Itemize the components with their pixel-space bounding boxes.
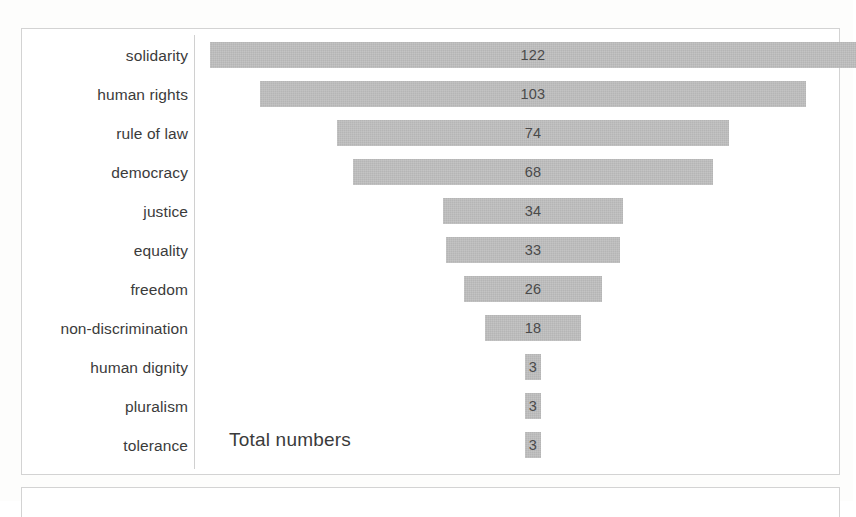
bar-track: 3 <box>195 387 841 426</box>
category-label-human-rights: human rights <box>97 75 188 114</box>
funnel-rows: solidarity122human rights103rule of law7… <box>22 36 841 468</box>
funnel-chart-frame: solidarity122human rights103rule of law7… <box>21 28 840 475</box>
category-label-pluralism: pluralism <box>125 387 188 426</box>
bar-value-label: 68 <box>353 159 713 185</box>
bar-value-label: 103 <box>260 81 805 107</box>
category-label-tolerance: tolerance <box>123 426 188 465</box>
bar-track: 103 <box>195 75 841 114</box>
funnel-row: freedom26 <box>22 270 841 309</box>
bar-value-label: 33 <box>446 237 621 263</box>
bar-value-label: 3 <box>525 393 541 419</box>
category-label-human-dignity: human dignity <box>90 348 188 387</box>
bar-value-label: 18 <box>485 315 580 341</box>
bar-track: 34 <box>195 192 841 231</box>
funnel-row: non-discrimination18 <box>22 309 841 348</box>
bar-track: 18 <box>195 309 841 348</box>
funnel-row: rule of law74 <box>22 114 841 153</box>
category-label-equality: equality <box>134 231 188 270</box>
bar-value-label: 3 <box>525 432 541 458</box>
category-label-non-discrimination: non-discrimination <box>60 309 188 348</box>
funnel-row: pluralism3 <box>22 387 841 426</box>
funnel-row: justice34 <box>22 192 841 231</box>
category-label-justice: justice <box>143 192 188 231</box>
bar-track: 74 <box>195 114 841 153</box>
bar-track: 122 <box>195 36 841 75</box>
bar-value-label: 122 <box>210 42 856 68</box>
bar-track: 26 <box>195 270 841 309</box>
funnel-row: human rights103 <box>22 75 841 114</box>
bar-track: 3 <box>195 348 841 387</box>
funnel-row: human dignity3 <box>22 348 841 387</box>
bar-track: 68 <box>195 153 841 192</box>
bar-value-label: 34 <box>443 198 623 224</box>
category-label-democracy: democracy <box>111 153 188 192</box>
category-label-freedom: freedom <box>130 270 188 309</box>
bar-value-label: 3 <box>525 354 541 380</box>
bar-track: 33 <box>195 231 841 270</box>
bar-value-label: 26 <box>464 276 602 302</box>
funnel-row: democracy68 <box>22 153 841 192</box>
funnel-row: solidarity122 <box>22 36 841 75</box>
category-label-rule-of-law: rule of law <box>116 114 188 153</box>
funnel-row: equality33 <box>22 231 841 270</box>
funnel-row: tolerance3 <box>22 426 841 465</box>
category-label-solidarity: solidarity <box>126 36 188 75</box>
chart-caption: Total numbers <box>229 429 351 451</box>
clipped-header-text <box>0 0 853 11</box>
bar-value-label: 74 <box>337 120 729 146</box>
lower-clipped-frame <box>21 487 840 517</box>
